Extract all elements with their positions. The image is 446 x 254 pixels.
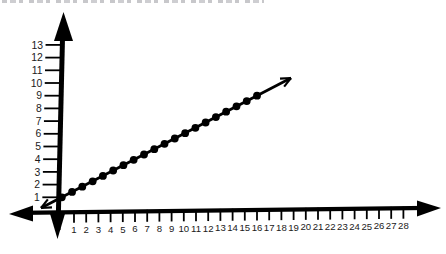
y-tick-label: 8: [36, 103, 42, 114]
data-point-dot: [191, 124, 199, 132]
x-tick-label: 8: [157, 223, 162, 234]
y-axis: [58, 38, 63, 230]
data-point-dot: [130, 156, 138, 164]
x-tick-label: 28: [398, 220, 409, 231]
coordinate-plane-graph: 1234567891011121314151617181920212223242…: [0, 0, 446, 254]
data-point-dot: [212, 113, 220, 121]
graph-canvas: 1234567891011121314151617181920212223242…: [0, 0, 446, 254]
y-tick-label: 7: [36, 116, 42, 127]
x-axis-right-arrow-icon: [417, 201, 441, 217]
y-tick-label: 4: [35, 154, 41, 165]
data-point-dot: [78, 183, 86, 191]
x-tick-label: 6: [132, 223, 137, 234]
x-tick-label: 12: [203, 223, 214, 234]
x-tick-label: 20: [300, 221, 311, 232]
data-point-dot: [181, 129, 189, 137]
data-point-dot: [120, 161, 128, 169]
x-tick-label: 22: [325, 221, 336, 232]
x-tick-label: 23: [337, 221, 348, 232]
x-tick-label: 2: [84, 224, 89, 235]
data-point-dot: [140, 151, 148, 159]
y-tick-label: 10: [31, 78, 43, 89]
x-tick-label: 26: [374, 220, 385, 231]
x-tick-label: 19: [288, 222, 299, 233]
x-axis: [20, 208, 430, 213]
x-tick-label: 9: [169, 223, 174, 234]
data-point-dot: [150, 145, 158, 153]
data-point-dot: [253, 92, 261, 100]
data-point-dot: [202, 119, 210, 127]
y-tick-label: 3: [35, 167, 41, 178]
x-tick-label: 3: [96, 224, 101, 235]
y-tick-label: 2: [34, 179, 40, 190]
x-tick-label: 13: [215, 222, 226, 233]
data-point-dot: [109, 167, 117, 175]
y-axis-up-arrow-icon: [54, 12, 73, 41]
y-axis-down-arrow-icon: [50, 212, 66, 239]
x-tick-label: 1: [71, 224, 76, 235]
x-tick-label: 18: [276, 222, 287, 233]
x-tick-label: 24: [349, 221, 360, 232]
y-tick-label: 12: [31, 52, 43, 63]
y-tick-label: 6: [35, 128, 41, 139]
x-tick-label: 10: [178, 223, 189, 234]
data-point-dot: [233, 102, 241, 110]
x-tick-label: 11: [191, 223, 201, 234]
data-point-dot: [58, 193, 66, 201]
x-tick-label: 17: [264, 222, 275, 233]
data-point-dot: [222, 108, 230, 116]
y-tick-label: 11: [32, 65, 43, 76]
y-tick-label: 5: [35, 141, 41, 152]
x-tick-label: 4: [108, 224, 114, 235]
x-tick-label: 14: [227, 222, 238, 233]
x-axis-left-arrow-icon: [9, 206, 33, 222]
x-tick-label: 21: [313, 221, 324, 232]
x-tick-label: 7: [145, 223, 150, 234]
y-tick-label: 13: [31, 40, 43, 51]
data-point-dot: [68, 188, 76, 196]
data-point-dot: [171, 135, 179, 143]
data-point-dot: [161, 140, 169, 148]
data-point-dot: [243, 97, 251, 105]
x-tick-label: 16: [252, 222, 263, 233]
x-tick-label: 5: [120, 224, 125, 235]
x-tick-label: 27: [386, 220, 397, 231]
y-tick-label: 9: [36, 90, 42, 101]
data-point-dot: [99, 172, 107, 180]
y-tick-label: 1: [34, 192, 40, 203]
data-point-dot: [89, 177, 97, 185]
x-tick-label: 25: [361, 221, 372, 232]
x-tick-label: 15: [239, 222, 250, 233]
